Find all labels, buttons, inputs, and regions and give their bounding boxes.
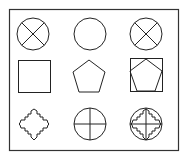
- stepped-cross-icon: [19, 109, 49, 140]
- cell-circle-with-x-1: [17, 18, 49, 50]
- cell-pentagon: [73, 60, 105, 92]
- square-icon: [19, 61, 51, 93]
- cell-circle: [74, 18, 106, 50]
- circle-icon: [74, 18, 106, 50]
- cell-circle-with-plus: [74, 108, 106, 140]
- cell-square-with-pentagon: [130, 59, 163, 92]
- cell-square: [19, 61, 51, 93]
- shape-puzzle-diagram: [0, 0, 188, 157]
- cell-stepped-cross: [19, 109, 49, 140]
- pentagon-icon: [130, 59, 162, 91]
- cell-combined: [130, 108, 162, 140]
- cell-circle-with-x-2: [130, 18, 162, 50]
- pentagon-icon: [73, 60, 105, 92]
- outer-frame: [10, 10, 179, 151]
